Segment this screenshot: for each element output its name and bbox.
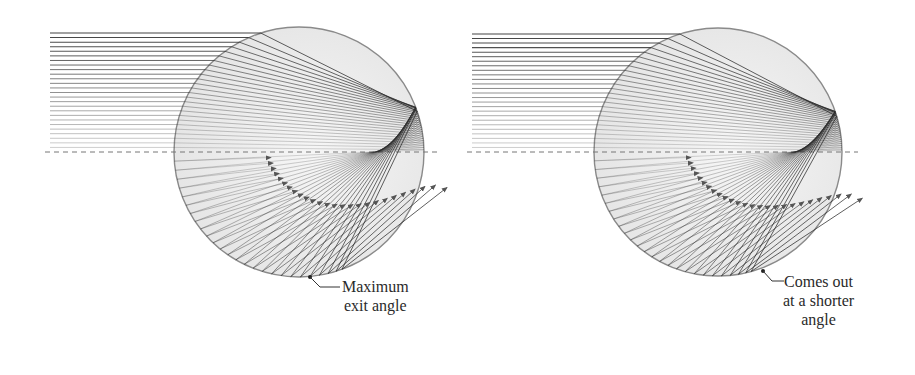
- label-line: exit angle: [342, 296, 409, 315]
- label-line: angle: [783, 310, 854, 329]
- panel-right-diagram: [467, 28, 862, 281]
- shorter-angle-label: Comes out at a shorter angle: [783, 272, 854, 329]
- maximum-exit-angle-label: Maximum exit angle: [342, 277, 409, 315]
- label-line: Comes out: [783, 272, 854, 291]
- callout-leader-line: [763, 271, 784, 281]
- panel-left-diagram: [45, 27, 447, 287]
- label-line: Maximum: [342, 277, 409, 296]
- raindrop-diagram: [0, 0, 915, 375]
- label-line: at a shorter: [783, 291, 854, 310]
- callout-leader-line: [310, 277, 340, 287]
